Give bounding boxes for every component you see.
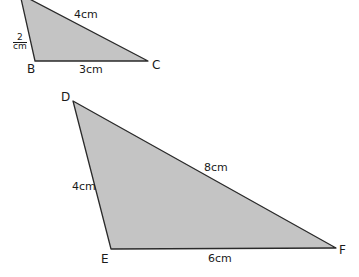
side-label-bc: 3cm: [79, 64, 103, 75]
vertex-label-d: D: [61, 91, 70, 103]
side-label-ac: 4cm: [74, 9, 98, 20]
diagram-canvas: [0, 0, 359, 277]
side-label-ab: 2 cm: [13, 34, 27, 50]
side-label-de: 4cm: [72, 181, 96, 192]
triangle-def: [73, 101, 336, 249]
side-label-ef: 6cm: [208, 253, 232, 264]
vertex-label-c: C: [152, 59, 160, 71]
side-label-df: 8cm: [204, 162, 228, 173]
side-label-ab-unit: cm: [13, 41, 27, 51]
vertex-label-b: B: [27, 63, 35, 75]
vertex-label-e: E: [101, 253, 109, 265]
vertex-label-f: F: [339, 244, 346, 256]
